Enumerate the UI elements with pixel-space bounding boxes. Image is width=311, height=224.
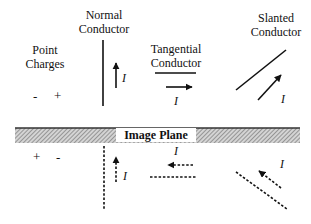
- tangential-conductor-line2: Conductor: [150, 56, 202, 70]
- slanted-current-arrow: [258, 75, 281, 100]
- tangential-conductor-line1: Tangential: [150, 42, 202, 56]
- point-charges-line2: Charges: [20, 57, 70, 71]
- slanted-current-label: I: [281, 93, 285, 105]
- point-charges-title: Point Charges: [20, 43, 70, 71]
- tangential-conductor-title: Tangential Conductor: [150, 42, 202, 70]
- real-charge-negative: -: [33, 90, 37, 103]
- normal-current-label: I: [122, 72, 126, 84]
- slanted-conductor-title: Slanted Conductor: [246, 11, 306, 39]
- real-charge-positive: +: [54, 89, 61, 102]
- slanted-conductor-line2: Conductor: [246, 25, 306, 39]
- image-tangential-current-label: I: [174, 145, 178, 157]
- image-charge-positive: +: [33, 150, 40, 163]
- image-slanted-current-arrow: [259, 171, 281, 188]
- point-charges-line1: Point: [20, 43, 70, 57]
- image-slanted-conductor: [236, 172, 287, 209]
- slanted-conductor: [236, 50, 286, 90]
- tangential-current-label: I: [174, 95, 178, 107]
- image-slanted-current-label: I: [280, 158, 284, 170]
- normal-conductor-line1: Normal: [78, 8, 130, 22]
- slanted-conductor-line1: Slanted: [246, 11, 306, 25]
- image-plane-label: Image Plane: [116, 128, 196, 142]
- image-charge-negative: -: [56, 151, 60, 164]
- normal-conductor-line2: Conductor: [78, 22, 130, 36]
- image-normal-current-label: I: [123, 170, 127, 182]
- normal-conductor-title: Normal Conductor: [78, 8, 130, 36]
